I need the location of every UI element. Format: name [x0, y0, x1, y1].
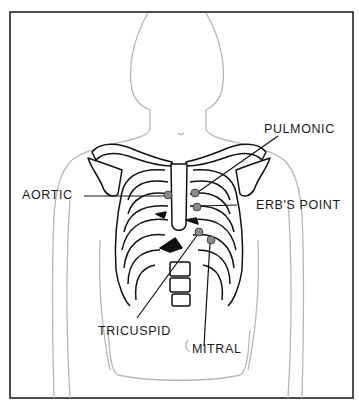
aortic-label: AORTIC	[22, 189, 73, 202]
pulmonic-site-dot	[191, 189, 199, 197]
erbs-point-label: ERB'S POINT	[256, 199, 341, 212]
mitral-label: MITRAL	[192, 343, 241, 356]
tricuspid-site-dot	[195, 228, 203, 236]
auscultation-diagram: PULMONIC AORTIC ERB'S POINT TRICUSPID MI…	[0, 0, 359, 407]
pulmonic-label: PULMONIC	[264, 123, 335, 136]
erbs-point-site-dot	[193, 203, 201, 211]
mitral-site-dot	[207, 236, 215, 244]
aortic-site-dot	[164, 191, 172, 199]
tricuspid-label: TRICUSPID	[98, 325, 171, 338]
